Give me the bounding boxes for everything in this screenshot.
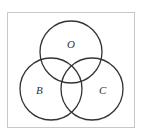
venn-diagram: O B C (0, 0, 142, 137)
label-o: O (67, 38, 75, 50)
label-b: B (36, 84, 43, 96)
label-c: C (99, 84, 107, 96)
